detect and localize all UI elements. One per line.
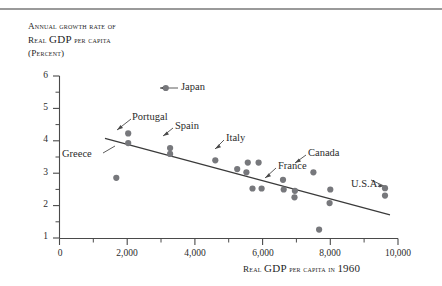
data-point — [234, 166, 240, 172]
axes — [60, 76, 399, 239]
annotation-label-italy: Italy — [226, 132, 245, 143]
data-point — [259, 185, 265, 191]
data-point — [327, 200, 333, 206]
x-tick-label: 4,000 — [172, 248, 218, 258]
annotation-label-spain: Spain — [175, 120, 199, 131]
data-point — [281, 186, 287, 192]
annotation-label-france: France — [278, 160, 307, 171]
y-tick-label: 6 — [30, 70, 48, 80]
data-point — [245, 160, 251, 166]
scatter-chart: ANNUAL GROWTH RATE OF REAL GDP PER CAPIT… — [0, 0, 442, 286]
data-point — [316, 227, 322, 233]
x-tick-label: 10,000 — [372, 248, 424, 258]
data-point — [167, 151, 173, 157]
data-point — [212, 157, 218, 163]
data-point — [249, 185, 255, 191]
x-tick-label: 6,000 — [240, 248, 286, 258]
data-point — [291, 194, 297, 200]
x-tick-label: 0 — [45, 248, 75, 258]
data-point — [280, 177, 286, 183]
annotation-label-japan: Japan — [181, 81, 205, 92]
x-tick-label: 2,000 — [104, 248, 150, 258]
data-point — [382, 193, 388, 199]
y-axis-ticks — [53, 76, 60, 238]
regression-trend-line — [105, 138, 390, 215]
data-point — [167, 145, 173, 151]
x-tick-label: 8,000 — [307, 248, 353, 258]
data-point — [163, 85, 169, 91]
data-point — [310, 169, 316, 175]
data-point — [243, 169, 249, 175]
y-tick-label: 2 — [30, 199, 48, 209]
y-tick-label: 4 — [30, 134, 48, 144]
y-tick-label: 5 — [30, 102, 48, 112]
data-point — [256, 160, 262, 166]
data-point — [292, 188, 298, 194]
y-tick-label: 3 — [30, 167, 48, 177]
data-point — [327, 186, 333, 192]
data-point — [382, 185, 388, 191]
plot-canvas — [0, 0, 442, 286]
annotation-label-canada: Canada — [308, 147, 340, 158]
annotation-label-greece: Greece — [62, 148, 92, 159]
x-axis-title: REAL GDP PER CAPITA IN 1960 — [243, 262, 360, 274]
annotation-label-portugal: Portugal — [132, 111, 168, 122]
data-point-group — [113, 85, 388, 233]
y-tick-label: 1 — [30, 231, 48, 241]
data-point — [113, 175, 119, 181]
data-point — [125, 140, 131, 146]
annotation-label-usa: U.S.A. — [351, 178, 380, 189]
x-axis-ticks — [60, 239, 399, 246]
data-point — [125, 130, 131, 136]
